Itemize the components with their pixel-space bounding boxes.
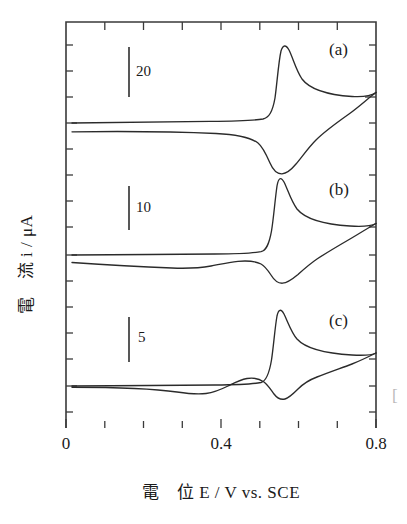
- cyclic-voltammogram-figure: 20 10 5 (a) (b) (c) 0 0.4 0.8 電 位 E / V …: [0, 0, 407, 524]
- panel-label-a: (a): [329, 40, 348, 60]
- x-axis-ticks: [66, 419, 376, 428]
- x-axis-title: 電 位 E / V vs. SCE: [66, 478, 376, 503]
- x-tick-label-0: 0: [46, 434, 86, 454]
- scale-bar-label-a: 20: [136, 63, 151, 80]
- x-tick-label-0.8: 0.8: [356, 434, 396, 454]
- margin-bracket-mark: [: [392, 386, 398, 406]
- x-tick-label-0.4: 0.4: [201, 434, 241, 454]
- left-axis-ticks: [66, 45, 77, 412]
- plot-frame: [66, 22, 376, 428]
- cv-trace-a: [72, 46, 376, 174]
- scale-bar-label-b: 10: [136, 199, 151, 216]
- scale-bar-label-c: 5: [138, 329, 146, 346]
- panel-label-c: (c): [329, 311, 348, 331]
- top-axis-ticks: [105, 22, 337, 30]
- y-axis-title: 電 流 i / μA: [12, 165, 37, 365]
- panel-label-b: (b): [329, 180, 349, 200]
